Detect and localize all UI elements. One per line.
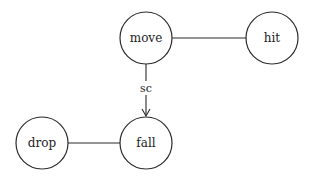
node-fall: fall xyxy=(120,117,172,169)
node-move: move xyxy=(120,12,172,64)
graph-canvas: sc move hit drop fall xyxy=(0,0,313,181)
node-fall-label: fall xyxy=(136,136,155,150)
node-drop: drop xyxy=(16,117,68,169)
node-hit: hit xyxy=(246,12,298,64)
edge-label-sc: sc xyxy=(140,82,152,95)
node-move-label: move xyxy=(130,31,162,45)
node-hit-label: hit xyxy=(264,31,281,45)
node-drop-label: drop xyxy=(28,136,57,150)
